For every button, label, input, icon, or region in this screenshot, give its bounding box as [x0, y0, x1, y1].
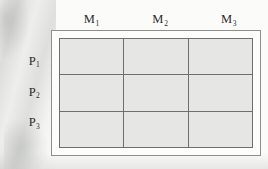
column-header-m1-base: M	[84, 12, 95, 26]
column-header-m2-subscript: 2	[164, 19, 168, 28]
row-label-p2-base: P	[29, 85, 36, 99]
matrix-grid	[59, 38, 253, 148]
row-label-p3-base: P	[29, 115, 36, 129]
row-label-p1: P1	[18, 46, 50, 77]
grid-cell-p2-m2[interactable]	[124, 75, 187, 110]
row-label-p3: P3	[18, 107, 50, 138]
figure-canvas: M1 M2 M3 P1 P2 P3	[0, 0, 268, 169]
column-header-m3-subscript: 3	[233, 19, 237, 28]
column-header-m3-base: M	[221, 12, 232, 26]
column-header-row: M1 M2 M3	[57, 9, 263, 29]
column-header-m2-base: M	[152, 12, 163, 26]
grid-cell-p2-m1[interactable]	[60, 75, 123, 110]
grid-cell-p2-m3[interactable]	[189, 75, 252, 110]
column-header-m1: M1	[57, 9, 126, 29]
grid-cell-p1-m2[interactable]	[124, 39, 187, 74]
column-header-m1-subscript: 1	[96, 19, 100, 28]
row-label-p2: P2	[18, 77, 50, 108]
row-label-p1-subscript: 1	[36, 60, 40, 69]
row-label-column: P1 P2 P3	[18, 46, 50, 138]
column-header-m2: M2	[126, 9, 195, 29]
row-label-p3-subscript: 3	[36, 122, 40, 131]
grid-cell-p3-m1[interactable]	[60, 112, 123, 147]
grid-cell-p1-m3[interactable]	[189, 39, 252, 74]
row-label-p2-subscript: 2	[36, 91, 40, 100]
grid-cell-p1-m1[interactable]	[60, 39, 123, 74]
grid-cell-p3-m3[interactable]	[189, 112, 252, 147]
row-label-p1-base: P	[29, 54, 36, 68]
column-header-m3: M3	[194, 9, 263, 29]
grid-cell-p3-m2[interactable]	[124, 112, 187, 147]
